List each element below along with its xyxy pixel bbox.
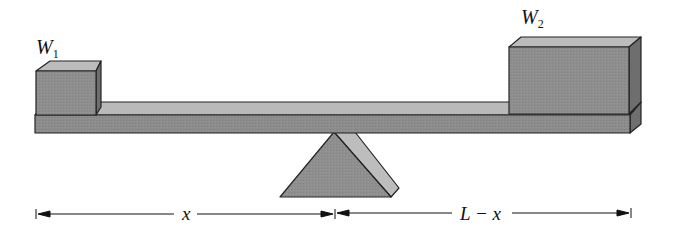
label-w1: W1 — [36, 37, 59, 60]
label-right-span: L − x — [456, 204, 505, 223]
w2-subscript: 2 — [538, 17, 544, 31]
w1-side-face — [96, 61, 101, 115]
w1-top-face — [36, 61, 101, 71]
label-left-span: x — [178, 204, 194, 223]
w2-symbol: W — [521, 6, 538, 28]
fulcrum — [280, 132, 399, 197]
arrow-left-icon — [337, 210, 349, 216]
w2-top-face — [509, 37, 641, 47]
label-w2: W2 — [521, 7, 544, 30]
w1-symbol: W — [36, 36, 53, 58]
weight-w1-box — [36, 61, 101, 115]
dimension-lines — [36, 208, 631, 219]
arrow-right-icon — [617, 210, 629, 216]
seesaw-diagram: W1 W2 x L − x — [0, 0, 676, 235]
arrow-right-icon — [321, 211, 333, 217]
w1-subscript: 1 — [53, 47, 59, 61]
w2-side-face — [629, 37, 641, 114]
seesaw-figure — [0, 0, 676, 235]
arrow-left-icon — [38, 211, 50, 217]
weight-w2-box — [509, 37, 641, 114]
